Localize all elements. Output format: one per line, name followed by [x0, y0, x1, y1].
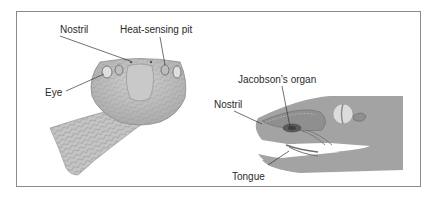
label-eye: Eye: [45, 88, 62, 98]
label-nostril-front: Nostril: [60, 25, 88, 35]
nostril-dot-left: [130, 61, 132, 63]
label-heat-sensing-pit: Heat-sensing pit: [120, 25, 192, 35]
label-jacobsons-organ: Jacobson’s organ: [238, 75, 316, 85]
nostril-dot-right: [150, 61, 152, 63]
label-tongue: Tongue: [232, 172, 265, 182]
leader-nostril: [60, 36, 130, 61]
eye-section: [333, 104, 353, 124]
heat-pit-right: [161, 65, 169, 75]
snake-head-front: [50, 36, 186, 175]
eye-right: [173, 66, 181, 78]
leader-nostril-section: [234, 111, 262, 124]
label-nostril-section: Nostril: [214, 100, 242, 110]
heat-pit-left: [115, 65, 123, 75]
snake-head-section: [234, 86, 403, 173]
eye-left: [102, 66, 112, 78]
